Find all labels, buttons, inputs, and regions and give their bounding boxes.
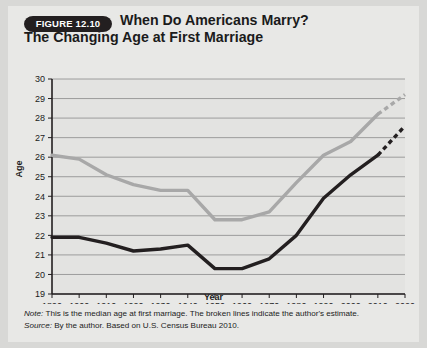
figure-notes: Note: This is the median age at first ma… [24, 308, 412, 331]
svg-text:22: 22 [35, 231, 45, 241]
figure-title-line1: When Do Americans Marry? [120, 12, 414, 29]
svg-text:1920: 1920 [123, 301, 143, 304]
svg-text:20: 20 [35, 270, 45, 280]
svg-text:1890: 1890 [42, 301, 62, 304]
svg-text:1990: 1990 [314, 301, 334, 304]
note-line: Note: This is the median age at first ma… [24, 308, 412, 320]
note-label: Note: [24, 309, 43, 318]
svg-text:23: 23 [35, 211, 45, 221]
svg-text:21: 21 [35, 250, 45, 260]
svg-text:29: 29 [35, 94, 45, 104]
svg-text:26: 26 [35, 152, 45, 162]
source-label: Source: [24, 321, 52, 330]
svg-text:2000: 2000 [341, 301, 361, 304]
svg-text:27: 27 [35, 133, 45, 143]
note-text: This is the median age at first marriage… [43, 309, 359, 318]
svg-text:30: 30 [35, 74, 45, 84]
svg-text:1940: 1940 [178, 301, 198, 304]
svg-text:25: 25 [35, 172, 45, 182]
svg-text:1980: 1980 [286, 301, 306, 304]
chart-plot-area: Age Year Men Women 192021222324252627282… [8, 64, 419, 304]
source-line: Source: By the author. Based on U.S. Cen… [24, 320, 412, 332]
svg-text:1970: 1970 [259, 301, 279, 304]
line-chart-svg: 1920212223242526272829301890190019101920… [8, 64, 419, 304]
svg-text:2020: 2020 [395, 301, 415, 304]
svg-text:1900: 1900 [69, 301, 89, 304]
svg-text:1930: 1930 [151, 301, 171, 304]
figure-number-badge: FIGURE 12.10 [24, 16, 112, 32]
svg-text:2010: 2010 [368, 301, 388, 304]
svg-text:24: 24 [35, 192, 45, 202]
figure-card: When Do Americans Marry? The Changing Ag… [8, 6, 419, 342]
svg-text:1910: 1910 [96, 301, 116, 304]
svg-text:19: 19 [35, 289, 45, 299]
figure-header: When Do Americans Marry? The Changing Ag… [8, 8, 419, 52]
svg-text:1960: 1960 [232, 301, 252, 304]
svg-text:28: 28 [35, 113, 45, 123]
source-text: By the author. Based on U.S. Census Bure… [52, 321, 239, 330]
svg-text:1950: 1950 [205, 301, 225, 304]
